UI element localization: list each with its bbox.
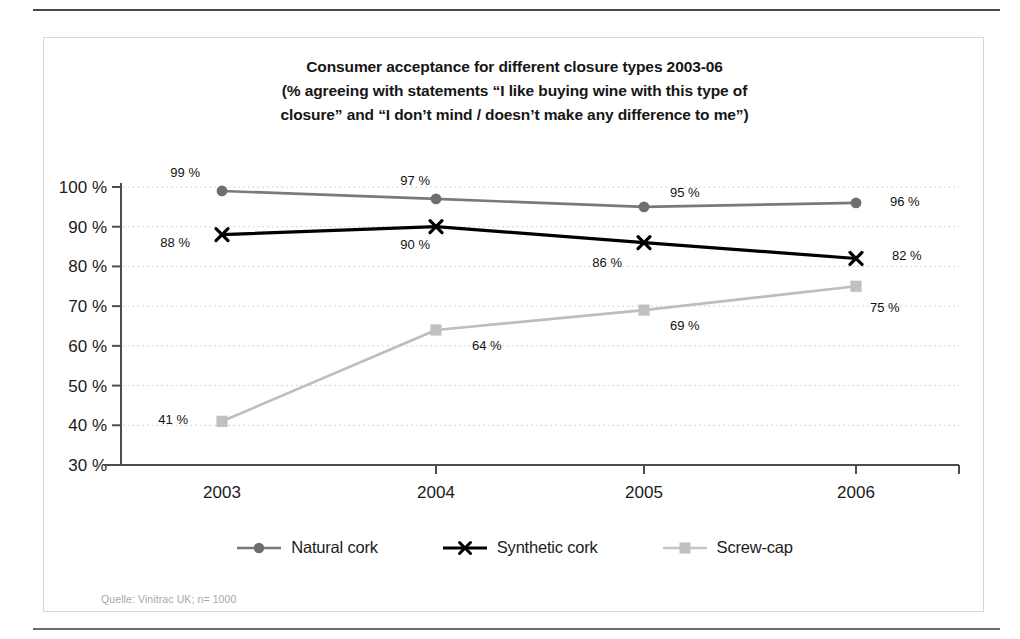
data-value-label: 86 % [592,255,622,270]
x-axis-tick-label: 2004 [417,483,455,502]
y-axis-tick-label: 90 % [68,218,107,237]
gridlines [123,187,959,465]
chart-legend: Natural cork Synthetic cork Screw-cap [44,538,985,557]
data-point-marker [638,305,649,316]
data-value-label: 99 % [170,165,200,180]
data-point-marker [639,201,650,212]
data-point-marker [851,197,862,208]
data-value-label: 82 % [892,248,922,263]
legend-label-natural-cork: Natural cork [291,538,378,557]
x-axis-ticks [436,465,856,474]
page-rule-bottom [33,628,1000,630]
data-value-label: 97 % [400,173,430,188]
legend-marker-square-icon [662,540,708,556]
data-point-marker [216,416,227,427]
data-value-label: 64 % [472,338,502,353]
data-value-label: 41 % [158,412,188,427]
y-axis-tick-label: 100 % [59,178,107,197]
x-axis-tick-labels: 2003200420052006 [203,483,875,502]
legend-item-synthetic-cork[interactable]: Synthetic cork [442,538,598,557]
series-line [222,191,856,207]
legend-label-screw-cap: Screw-cap [717,538,793,557]
legend-label-synthetic-cork: Synthetic cork [497,538,598,557]
series-layer [216,186,862,427]
data-point-marker [217,186,228,197]
line-chart-plot: 30 %40 %50 %60 %70 %80 %90 %100 % 200320… [44,38,985,613]
y-axis-tick-label: 30 % [68,456,107,475]
x-axis-tick-label: 2003 [203,483,241,502]
y-axis-tick-label: 40 % [68,416,107,435]
legend-item-natural-cork[interactable]: Natural cork [236,538,378,557]
y-axis-ticks [112,187,121,465]
y-axis-tick-label: 60 % [68,337,107,356]
y-axis-tick-label: 50 % [68,377,107,396]
series-line [222,286,856,421]
source-note: Quelle: Vinitrac UK; n= 1000 [101,593,236,605]
legend-marker-x-icon [442,540,488,556]
data-value-label: 95 % [670,185,700,200]
chart-frame: Consumer acceptance for different closur… [43,37,984,612]
x-axis-tick-label: 2006 [837,483,875,502]
y-axis-tick-labels: 30 %40 %50 %60 %70 %80 %90 %100 % [59,178,107,475]
series-line [222,227,856,259]
legend-item-screw-cap[interactable]: Screw-cap [662,538,793,557]
data-point-marker [431,194,442,205]
legend-marker-circle-icon [236,540,282,556]
data-value-label: 75 % [870,300,900,315]
data-value-label: 90 % [400,237,430,252]
data-value-label: 69 % [670,318,700,333]
y-axis-tick-label: 70 % [68,297,107,316]
x-axis-tick-label: 2005 [625,483,663,502]
data-value-label: 88 % [160,235,190,250]
data-value-label: 96 % [890,194,920,209]
y-axis-tick-label: 80 % [68,257,107,276]
data-point-marker [850,281,861,292]
data-point-marker [430,324,441,335]
page-rule-top [33,9,1000,11]
